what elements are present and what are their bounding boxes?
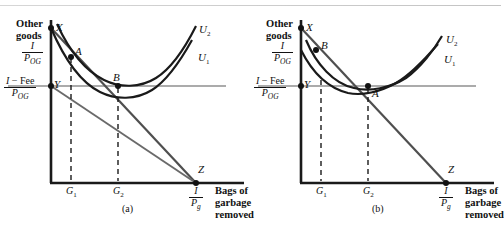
point-label-y: Y xyxy=(54,79,60,91)
x-axis-title: Bags of garbage removed xyxy=(215,185,254,220)
y-fee-fraction: I − Fee POG xyxy=(254,76,286,101)
point-label-b: B xyxy=(321,40,328,52)
y-fee-denominator: POG xyxy=(4,88,36,101)
point-label-z: Z xyxy=(448,164,454,176)
point-marker-a xyxy=(68,54,74,60)
x-intercept-denominator: Pg xyxy=(439,198,453,211)
panel-caption-a: (a) xyxy=(122,204,133,215)
point-label-x: X xyxy=(56,22,63,34)
y-intercept-fraction: I POG xyxy=(272,41,293,66)
y-intercept-denominator: POG xyxy=(272,53,293,66)
point-marker-b xyxy=(115,83,121,89)
y-intercept-numerator: I xyxy=(272,41,293,53)
y-fee-numerator: I − Fee xyxy=(4,76,36,88)
point-label-a: A xyxy=(75,46,82,58)
curve-label-u1: U1 xyxy=(444,54,455,69)
point-marker-a xyxy=(365,83,371,89)
point-label-y: Y xyxy=(304,79,310,91)
point-label-b: B xyxy=(113,72,120,84)
panel-caption-b: (b) xyxy=(372,204,384,215)
y-fee-numerator: I − Fee xyxy=(254,76,286,88)
point-marker-x xyxy=(48,25,54,31)
point-marker-b xyxy=(313,47,319,53)
x-intercept-fraction: I Pg xyxy=(439,186,453,211)
panel-b: Other goods I POG I − Fee POG X Y B A Z … xyxy=(250,0,500,232)
y-intercept-denominator: POG xyxy=(22,53,43,66)
x-intercept-fraction: I Pg xyxy=(189,186,203,211)
y-axis-title: Other goods xyxy=(16,18,43,42)
curve-label-u2: U2 xyxy=(446,34,457,49)
y-axis-title: Other goods xyxy=(266,18,293,42)
x-tick-label-g1: G1 xyxy=(66,186,77,199)
point-label-x: X xyxy=(306,22,313,34)
panel-a: Other goods I POG I − Fee POG X Y A B Z … xyxy=(0,0,250,232)
point-marker-x xyxy=(298,25,304,31)
x-intercept-numerator: I xyxy=(189,186,203,198)
point-label-z: Z xyxy=(198,164,204,176)
x-axis-title: Bags of garbage removed xyxy=(465,185,504,220)
x-tick-label-g1: G1 xyxy=(316,186,327,199)
curve-label-u1: U1 xyxy=(198,52,209,67)
y-intercept-numerator: I xyxy=(22,41,43,53)
y-fee-denominator: POG xyxy=(254,88,286,101)
y-fee-fraction: I − Fee POG xyxy=(4,76,36,101)
curve-label-u2: U2 xyxy=(199,24,210,39)
x-intercept-numerator: I xyxy=(439,186,453,198)
point-label-a: A xyxy=(372,88,379,100)
indifference-curve-u1 xyxy=(51,28,192,98)
x-intercept-denominator: Pg xyxy=(189,198,203,211)
y-intercept-fraction: I POG xyxy=(22,41,43,66)
budget-line-after-fee xyxy=(51,86,196,183)
x-tick-label-g2: G2 xyxy=(363,186,374,199)
x-tick-label-g2: G2 xyxy=(113,186,124,199)
